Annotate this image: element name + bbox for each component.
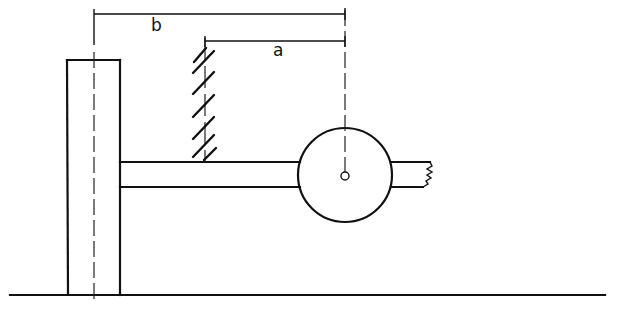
broken-stub bbox=[391, 162, 432, 187]
pivot-hole bbox=[341, 172, 349, 180]
break-symbol bbox=[423, 162, 432, 187]
horizontal-beam bbox=[120, 162, 300, 187]
dimension-b bbox=[94, 8, 345, 45]
diagram-canvas: b a bbox=[0, 0, 618, 314]
dimension-b-label: b bbox=[151, 15, 162, 35]
hatched-support bbox=[193, 38, 216, 162]
dimension-a-label: a bbox=[273, 40, 283, 60]
